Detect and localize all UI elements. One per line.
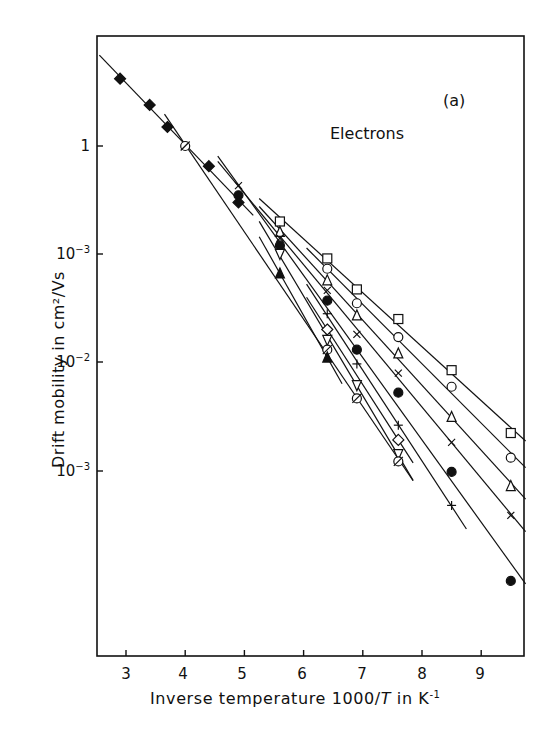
cross-x-marker (448, 439, 455, 446)
x-tick-3: 3 (116, 665, 136, 683)
open-circle-marker (352, 299, 361, 308)
x-tick-6: 6 (292, 665, 312, 683)
fit-line (164, 114, 413, 481)
open-triangle-marker (447, 411, 456, 421)
x-tick-8: 8 (412, 665, 432, 683)
cross-x-marker (353, 331, 360, 338)
open-circle-marker (323, 264, 332, 273)
y-tick-2: 10−3 (50, 244, 90, 263)
slashed-circle-marker (181, 142, 190, 151)
x-tick-5: 5 (232, 665, 252, 683)
open-diamond-marker (322, 324, 333, 335)
cross-x-marker (395, 370, 402, 377)
fit-line (218, 161, 526, 531)
fit-line (259, 207, 525, 500)
plot-area (0, 0, 553, 742)
open-triangle-marker (394, 348, 403, 358)
open-square-marker (394, 315, 403, 324)
fit-line (307, 248, 526, 468)
filled-diamond-marker (203, 161, 214, 172)
open-square-marker (275, 217, 284, 226)
fit-line (307, 284, 467, 529)
cross-x-marker (235, 182, 242, 189)
y-tick-1: 1 (50, 136, 90, 155)
open-triangle-marker (323, 275, 332, 285)
plus-marker (394, 421, 403, 430)
open-square-marker (447, 366, 456, 375)
filled-circle-marker (275, 241, 284, 250)
fit-line (259, 198, 525, 441)
open-triangle-marker (352, 310, 361, 320)
slashed-circle-marker (352, 394, 361, 403)
carrier-annotation: Electrons (330, 124, 404, 143)
x-tick-7: 7 (352, 665, 372, 683)
filled-circle-marker (506, 576, 515, 585)
open-diamond-marker (393, 434, 404, 445)
fit-line (218, 156, 526, 584)
open-square-marker (352, 285, 361, 294)
y-tick-4: 10−3 (50, 461, 90, 480)
open-down-triangle-marker (275, 250, 284, 260)
filled-circle-marker (394, 388, 403, 397)
filled-diamond-marker (144, 99, 155, 110)
open-circle-marker (394, 333, 403, 342)
filled-circle-marker (323, 296, 332, 305)
filled-circle-marker (447, 467, 456, 476)
x-tick-9: 9 (470, 665, 490, 683)
open-circle-marker (447, 382, 456, 391)
y-tick-3: 10−2 (50, 352, 90, 371)
open-square-marker (323, 254, 332, 263)
plot-frame (97, 36, 524, 656)
open-circle-marker (506, 453, 515, 462)
panel-label: (a) (443, 91, 465, 110)
open-square-marker (506, 429, 515, 438)
filled-diamond-marker (115, 73, 126, 84)
x-axis-label: Inverse temperature 1000/T in K-1 (150, 689, 441, 708)
filled-diamond-marker (233, 197, 244, 208)
x-tick-4: 4 (173, 665, 193, 683)
filled-triangle-marker (275, 268, 284, 278)
open-down-triangle-marker (352, 381, 361, 391)
slashed-circle-marker (394, 457, 403, 466)
filled-circle-marker (352, 345, 361, 354)
